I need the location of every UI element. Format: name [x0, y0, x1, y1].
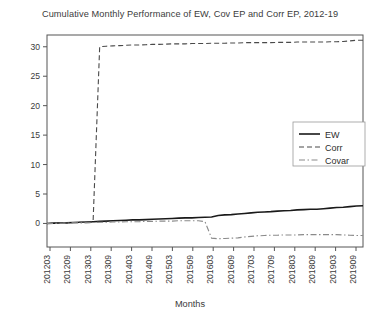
legend-label-covar: Covar — [325, 156, 349, 166]
x-axis-label: Months — [0, 299, 380, 309]
x-axis-tick-label: 201809 — [307, 255, 317, 284]
x-axis-tick-label: 201503 — [164, 255, 174, 284]
x-axis-tick-label: 201203 — [42, 255, 52, 284]
series-line-ew — [47, 206, 363, 224]
x-axis-tick-label: 201603 — [205, 255, 215, 284]
x-axis-tick-label: 201609 — [226, 255, 236, 284]
x-axis-tick-label: 201803 — [287, 255, 297, 284]
y-axis-tick-label: 20 — [30, 101, 40, 111]
x-axis-tick-label: 201309 — [103, 255, 113, 284]
x-axis-tick-label: 201903 — [328, 255, 338, 284]
chart-plot-area: 0510152025302012032012092013032013092014… — [0, 0, 380, 323]
x-axis-tick-label: 201909 — [348, 255, 358, 284]
y-axis-tick-label: 30 — [30, 42, 40, 52]
y-axis-tick-label: 25 — [30, 71, 40, 81]
y-axis-tick-label: 5 — [35, 189, 40, 199]
chart-figure: Cumulative Monthly Performance of EW, Co… — [0, 0, 380, 323]
x-axis-tick-label: 201409 — [144, 255, 154, 284]
legend-label-corr: Corr — [325, 143, 343, 153]
x-axis-tick-label: 201709 — [266, 255, 276, 284]
x-axis-tick-label: 201209 — [62, 255, 72, 284]
y-axis-tick-label: 15 — [30, 130, 40, 140]
y-axis-tick-label: 0 — [35, 218, 40, 228]
x-axis-tick-label: 201403 — [124, 255, 134, 284]
series-line-covar — [47, 221, 363, 239]
legend-label-ew: EW — [325, 130, 340, 140]
x-axis-tick-label: 201509 — [185, 255, 195, 284]
y-axis-tick-label: 10 — [30, 160, 40, 170]
x-axis-tick-label: 201303 — [83, 255, 93, 284]
x-axis-tick-label: 201703 — [246, 255, 256, 284]
